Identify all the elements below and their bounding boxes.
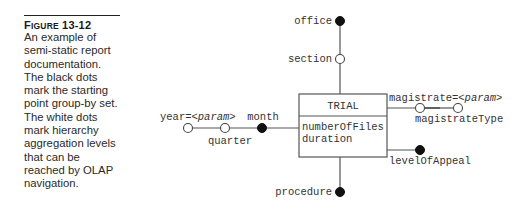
quarter-dot-white <box>221 124 230 133</box>
dfm-diagram: TRIAL numberOfFiles duration office sect… <box>0 0 528 209</box>
label-procedure: procedure <box>275 186 332 198</box>
month-dot-black <box>258 124 267 133</box>
label-month: month <box>247 111 279 123</box>
label-magistrate: magistrate=<param> <box>389 92 502 104</box>
label-magistrate-param: <param> <box>458 92 502 104</box>
label-year-param: <param> <box>192 111 236 123</box>
measure-duration: duration <box>302 133 352 145</box>
label-section: section <box>288 53 332 65</box>
label-office: office <box>294 15 332 27</box>
magistrate-type-dot-white <box>454 104 463 113</box>
procedure-dot-black <box>336 188 345 197</box>
office-dot-black <box>336 17 345 26</box>
label-year-prefix: year= <box>160 111 192 123</box>
level-of-appeal-dot-black <box>416 146 425 155</box>
label-level-of-appeal: levelOfAppeal <box>389 155 471 167</box>
label-quarter: quarter <box>208 135 252 147</box>
label-magistrate-type: magistrateType <box>415 113 503 125</box>
label-year: year=<param> <box>160 111 236 123</box>
year-dot-white <box>184 124 193 133</box>
measure-number-of-files: numberOfFiles <box>302 121 384 133</box>
section-dot-white <box>336 55 345 64</box>
magistrate-dot-white <box>416 104 425 113</box>
fact-name: TRIAL <box>327 100 359 112</box>
label-magistrate-prefix: magistrate= <box>389 92 458 104</box>
